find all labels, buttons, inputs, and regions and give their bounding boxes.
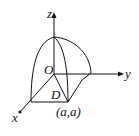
point-label: (a,a) bbox=[56, 104, 81, 119]
x-axis-arrow-icon bbox=[18, 110, 21, 113]
x-axis-label: x bbox=[11, 110, 18, 125]
y-axis-label: y bbox=[123, 66, 131, 81]
z-axis-label: z bbox=[46, 6, 52, 21]
x-axis bbox=[20, 74, 54, 112]
z-axis-arrow-icon bbox=[52, 12, 57, 18]
y-axis-arrow-icon bbox=[118, 72, 124, 77]
diagram-canvas: z y x O D (a,a) bbox=[0, 0, 139, 136]
origin-label: O bbox=[44, 62, 54, 77]
surface-curves bbox=[31, 37, 91, 102]
region-label: D bbox=[50, 87, 61, 102]
